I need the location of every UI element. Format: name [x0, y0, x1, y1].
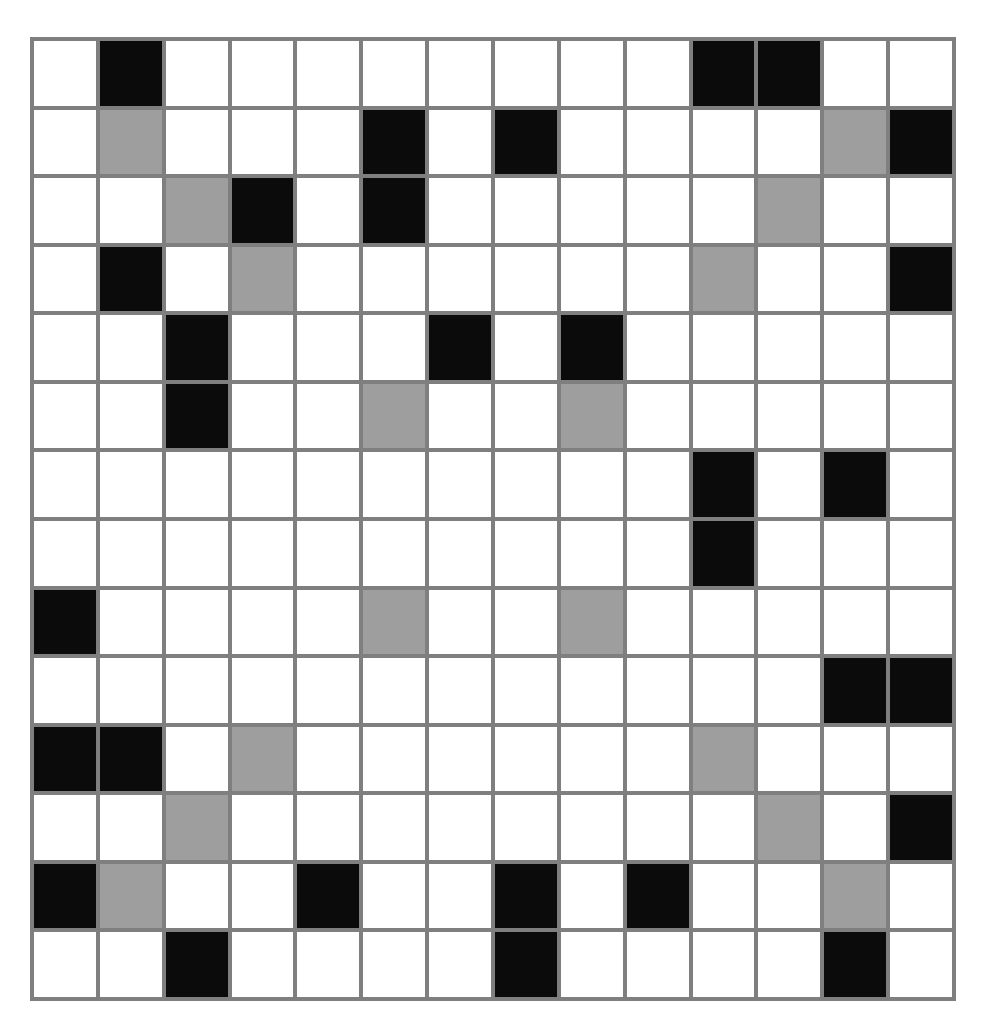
grid-cell-black	[890, 110, 952, 175]
grid-cell-white	[561, 795, 623, 860]
grid-cell-white	[758, 932, 820, 997]
grid-cell-black	[495, 864, 557, 929]
grid-cell-white	[166, 247, 228, 312]
grid-cell-black	[100, 41, 162, 106]
grid-cell-white	[627, 247, 689, 312]
grid-cell-black	[166, 932, 228, 997]
grid-cell-white	[758, 658, 820, 723]
grid-board	[30, 37, 956, 1001]
grid-cell-black	[297, 864, 359, 929]
grid-cell-black	[693, 41, 755, 106]
grid-cell-white	[363, 727, 425, 792]
grid-cell-white	[297, 452, 359, 517]
grid-cell-white	[100, 932, 162, 997]
grid-cell-white	[232, 41, 294, 106]
grid-cell-white	[232, 110, 294, 175]
grid-cell-black	[824, 452, 886, 517]
grid-cell-white	[166, 41, 228, 106]
grid-cell-white	[232, 452, 294, 517]
grid-cell-white	[627, 932, 689, 997]
grid-cell-white	[890, 384, 952, 449]
grid-cell-white	[166, 110, 228, 175]
grid-cell-white	[758, 727, 820, 792]
grid-cell-white	[429, 864, 491, 929]
grid-cell-white	[232, 795, 294, 860]
grid-cell-white	[100, 384, 162, 449]
grid-cell-white	[890, 864, 952, 929]
grid-cell-white	[890, 41, 952, 106]
grid-cell-white	[232, 384, 294, 449]
grid-cell-white	[363, 521, 425, 586]
grid-cell-white	[824, 795, 886, 860]
grid-cell-white	[100, 452, 162, 517]
grid-cell-white	[627, 110, 689, 175]
grid-cell-white	[824, 315, 886, 380]
grid-cell-white	[363, 795, 425, 860]
grid-cell-white	[495, 795, 557, 860]
grid-cell-black	[34, 590, 96, 655]
grid-cell-white	[429, 384, 491, 449]
grid-cell-white	[297, 41, 359, 106]
grid-cell-black	[495, 932, 557, 997]
grid-cell-white	[561, 864, 623, 929]
grid-cell-black	[890, 658, 952, 723]
grid-cell-white	[34, 41, 96, 106]
grid-cell-white	[627, 795, 689, 860]
grid-cell-gray	[363, 384, 425, 449]
grid-cell-black	[166, 384, 228, 449]
grid-cell-black	[100, 727, 162, 792]
grid-cell-white	[34, 315, 96, 380]
grid-cell-black	[627, 864, 689, 929]
grid-cell-white	[363, 315, 425, 380]
grid-cell-black	[693, 521, 755, 586]
grid-cell-black	[495, 110, 557, 175]
grid-cell-gray	[561, 590, 623, 655]
grid-cell-white	[824, 41, 886, 106]
grid-cell-white	[693, 590, 755, 655]
grid-cell-white	[100, 315, 162, 380]
grid-cell-white	[561, 932, 623, 997]
grid-cell-white	[363, 932, 425, 997]
grid-cell-black	[166, 315, 228, 380]
grid-cell-white	[890, 521, 952, 586]
grid-cell-gray	[166, 795, 228, 860]
grid-cell-white	[495, 452, 557, 517]
grid-cell-white	[297, 315, 359, 380]
grid-cell-white	[693, 864, 755, 929]
grid-cell-white	[166, 452, 228, 517]
grid-cell-white	[693, 384, 755, 449]
grid-cell-white	[627, 590, 689, 655]
grid-cell-white	[297, 795, 359, 860]
grid-cell-white	[166, 864, 228, 929]
grid-cell-white	[890, 452, 952, 517]
grid-cell-white	[297, 110, 359, 175]
grid-cell-black	[429, 315, 491, 380]
grid-cell-white	[429, 110, 491, 175]
grid-cell-black	[890, 795, 952, 860]
grid-cell-white	[627, 727, 689, 792]
grid-cell-white	[561, 452, 623, 517]
grid-cell-white	[166, 521, 228, 586]
grid-cell-white	[232, 315, 294, 380]
grid-cell-white	[627, 41, 689, 106]
grid-cell-gray	[693, 727, 755, 792]
grid-cell-gray	[693, 247, 755, 312]
grid-cell-white	[34, 932, 96, 997]
grid-cell-white	[627, 521, 689, 586]
grid-cell-white	[890, 590, 952, 655]
grid-cell-black	[34, 727, 96, 792]
grid-cell-black	[363, 110, 425, 175]
grid-cell-black	[890, 247, 952, 312]
grid-cell-white	[34, 384, 96, 449]
grid-cell-white	[758, 315, 820, 380]
grid-cell-gray	[824, 110, 886, 175]
grid-cell-white	[363, 658, 425, 723]
grid-cell-white	[100, 590, 162, 655]
grid-cell-white	[34, 658, 96, 723]
grid-cell-black	[100, 247, 162, 312]
grid-cell-white	[495, 658, 557, 723]
grid-cell-white	[561, 727, 623, 792]
grid-cell-white	[34, 795, 96, 860]
grid-cell-white	[166, 658, 228, 723]
grid-cell-white	[100, 795, 162, 860]
